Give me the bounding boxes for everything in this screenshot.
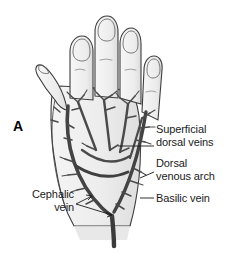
- label-cephalic-vein: Cephalic vein: [8, 188, 74, 213]
- panel-letter: A: [13, 118, 23, 134]
- little-finger: [142, 56, 162, 120]
- wrist-shading: [74, 226, 130, 240]
- label-basilic-vein: Basilic vein: [156, 192, 210, 205]
- anatomy-figure: A Superficial dorsal veins Dorsal venous…: [0, 0, 229, 254]
- label-superficial-dorsal-veins: Superficial dorsal veins: [156, 123, 214, 148]
- label-dorsal-venous-arch: Dorsal venous arch: [156, 157, 215, 182]
- vein-forearm-trunk: [112, 216, 114, 246]
